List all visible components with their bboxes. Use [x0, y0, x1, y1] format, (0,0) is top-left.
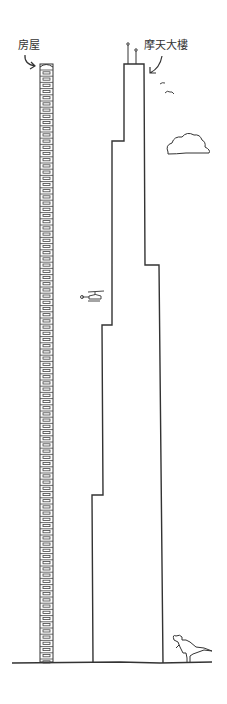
skyscraper [92, 64, 163, 663]
house-label: 房屋 [18, 40, 40, 51]
comic-illustration [0, 0, 227, 704]
birds [160, 83, 174, 94]
house-arrow-icon [25, 55, 35, 69]
house-floors [40, 70, 53, 663]
cloud-icon [167, 133, 209, 154]
dinosaur-icon [173, 635, 212, 662]
skyscraper-label: 摩天大樓 [144, 40, 188, 51]
helicopter-icon [81, 291, 105, 301]
skyscraper-arrow-icon [150, 56, 162, 73]
antennas [127, 43, 137, 64]
